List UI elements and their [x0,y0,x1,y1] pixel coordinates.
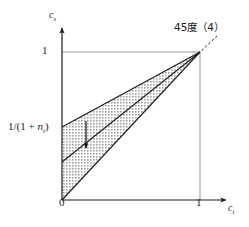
y-axis-label-subscript: s [53,15,56,22]
intercept-label: 1/(1 + nt) [8,121,49,135]
intercept-label-main: 1/(1 + [8,120,37,132]
middle-locus-line [62,52,200,162]
x-axis-label: ct [228,203,234,216]
forty-five-degree-dashed-extension [198,36,217,54]
forty-five-degree-annotation: 45度（4） [174,22,224,33]
figure-container: cs ct 1 0 1 1/(1 + nt) 45度（4） [0,0,249,227]
intercept-label-close: ) [45,120,49,132]
y-tick-label-one: 1 [42,45,48,56]
x-tick-label-zero: 0 [59,197,65,208]
plot-canvas [0,0,249,227]
y-axis-label: cs [49,10,56,23]
x-tick-label-one: 1 [196,197,202,208]
x-axis-label-subscript: t [232,208,234,215]
